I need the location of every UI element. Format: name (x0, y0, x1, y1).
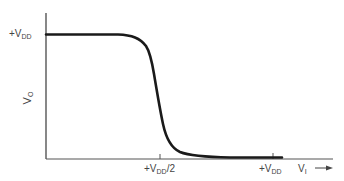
x-axis-arrow-head (326, 166, 333, 171)
x-tick-label-vdd: +VDD (259, 164, 282, 175)
y-tick-label-vdd: +VDD (9, 29, 32, 40)
transfer-characteristic-chart: VO +VDD +VDD/2 +VDD VI (0, 0, 344, 181)
x-axis-label: VI (298, 164, 307, 175)
chart-canvas (0, 0, 344, 181)
x-tick-label-half-vdd: +VDD/2 (144, 164, 175, 175)
transfer-curve (46, 35, 282, 158)
y-axis-label: VO (22, 92, 34, 105)
